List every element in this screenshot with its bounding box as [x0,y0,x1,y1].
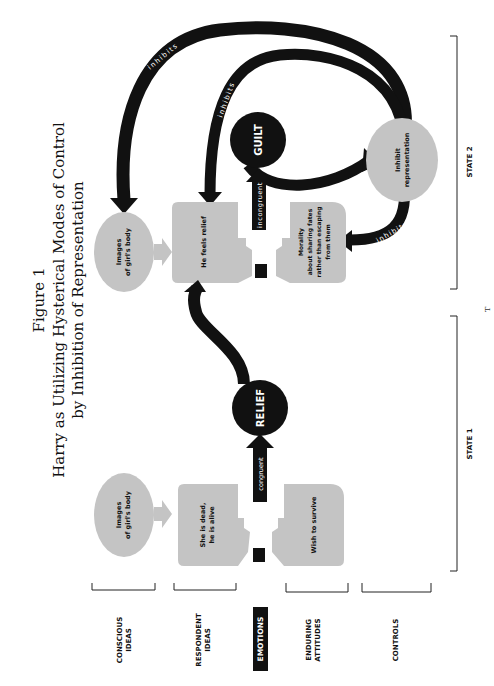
state-brackets [450,36,457,571]
inhibits-label-1: inhibits [146,41,180,71]
row-brackets [92,583,431,592]
row-label-respondent-2: IDEAS [204,628,212,652]
state2-enduring-line3: rather than escaping [315,207,323,278]
row-label-enduring-2: ATTITUDES [314,618,322,661]
inhibit-representation-ellipse [366,118,438,202]
arrow-conscious-to-respondent [154,500,172,528]
state1-conscious-line1: Images [115,502,123,529]
state1-enduring-box [272,484,344,566]
control-line2: representation [403,132,411,187]
state1-enduring-text: Wish to survive [310,496,318,553]
state2-conscious-line1: Images [115,239,123,266]
arrow-conscious-to-respondent [154,238,172,266]
state1-respondent-line1: She is dead, [199,503,207,548]
row-label-controls: CONTROLS [392,619,400,662]
relief-label: RELIEF [255,389,266,427]
state2-emotion-marker [255,264,267,278]
arrowhead [110,198,138,214]
row-label-emotions: EMOTIONS [256,617,265,662]
state2-enduring-line2: about sharing fates [306,208,314,275]
figure-title-line1: Harry as Utilizing Hysterical Modes of C… [50,122,68,478]
figure-diagram: Figure 1 Harry as Utilizing Hysterical M… [0,0,494,686]
state1-label: STATE 1 [466,428,474,459]
row-label-conscious-1: CONSCIOUS [116,617,124,663]
state1-emotion-link: congruent [257,457,265,491]
figure-title: Figure 1 Harry as Utilizing Hysterical M… [30,122,87,478]
control-line1: Inhibit [394,148,402,172]
row-label-conscious-2: IDEAS [125,628,133,652]
row-label-respondent-1: RESPONDENT [195,613,203,667]
state1-respondent-line2: he is alive [208,506,216,544]
state2-label: STATE 2 [466,146,474,177]
state2-emotion-link: incongruent [256,182,264,228]
page-mark: T [483,306,492,312]
state2-enduring-line1: Morality [297,228,305,256]
row-label-enduring-1: ENDURING [305,619,313,661]
figure-label: Figure 1 [30,268,48,333]
state1-conscious-line2: of girl's body [124,490,132,539]
arrowhead [246,434,274,448]
state2-conscious-line2: of girl's body [124,227,132,276]
relief-to-respondent-arrow [194,288,244,384]
state1-emotion-marker [253,548,265,562]
state2-enduring-line4: from them [324,224,331,260]
figure-title-line2: by Inhibition of Representation [69,181,87,419]
state2-respondent-text: He feels relief [200,216,208,268]
state2-respondent-box [172,202,252,283]
guilt-label: GUILT [253,124,264,156]
